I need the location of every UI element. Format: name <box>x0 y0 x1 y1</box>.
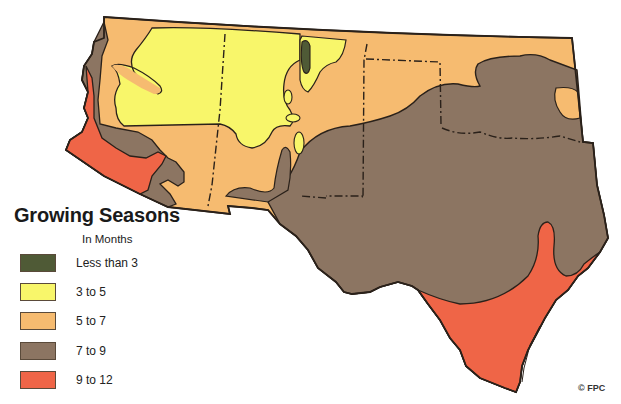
region-less-than-3 <box>301 41 310 74</box>
legend-item-7-to-9: 7 to 9 <box>20 342 220 362</box>
swatch-9-to-12 <box>20 371 56 389</box>
region-3-to-5-island-2 <box>286 114 300 122</box>
legend-label: Less than 3 <box>76 256 138 270</box>
legend-label: 7 to 9 <box>76 344 106 358</box>
region-3-to-5-island-3 <box>294 132 304 154</box>
legend-subtitle: In Months <box>82 233 133 245</box>
legend-item-3-to-5: 3 to 5 <box>20 283 220 303</box>
legend-label: 9 to 12 <box>76 373 113 387</box>
legend-label: 3 to 5 <box>76 285 106 299</box>
swatch-7-to-9 <box>20 342 56 360</box>
legend-label: 5 to 7 <box>76 314 106 328</box>
swatch-5-to-7 <box>20 312 56 330</box>
swatch-3-to-5 <box>20 283 56 301</box>
region-3-to-5-island-1 <box>284 90 292 104</box>
legend-title: Growing Seasons <box>14 204 180 227</box>
legend-item-less-than-3: Less than 3 <box>20 254 220 274</box>
legend-item-5-to-7: 5 to 7 <box>20 312 220 332</box>
copyright-credit: © FPC <box>578 383 605 393</box>
legend-item-9-to-12: 9 to 12 <box>20 371 220 391</box>
swatch-less-than-3 <box>20 254 56 272</box>
